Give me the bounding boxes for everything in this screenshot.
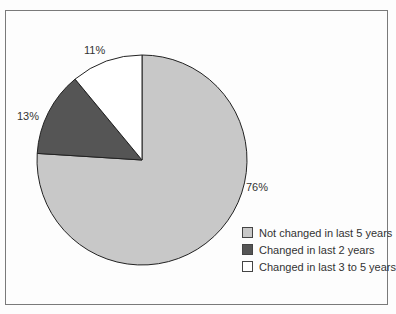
legend: Not changed in last 5 years Changed in l… [242,224,396,275]
legend-swatch [242,244,253,255]
legend-label: Changed in last 3 to 5 years [259,261,396,273]
slice-label-changed-3-5-years: 11% [84,44,105,56]
legend-swatch [242,261,253,272]
legend-item-changed-2-years: Changed in last 2 years [242,241,396,258]
legend-item-not-changed: Not changed in last 5 years [242,224,396,241]
legend-label: Changed in last 2 years [259,244,375,256]
slice-label-changed-2-years: 13% [17,110,39,122]
legend-label: Not changed in last 5 years [259,227,392,239]
legend-swatch [242,227,253,238]
legend-item-changed-3-5-years: Changed in last 3 to 5 years [242,258,396,275]
slice-label-not-changed: 76% [246,181,268,193]
